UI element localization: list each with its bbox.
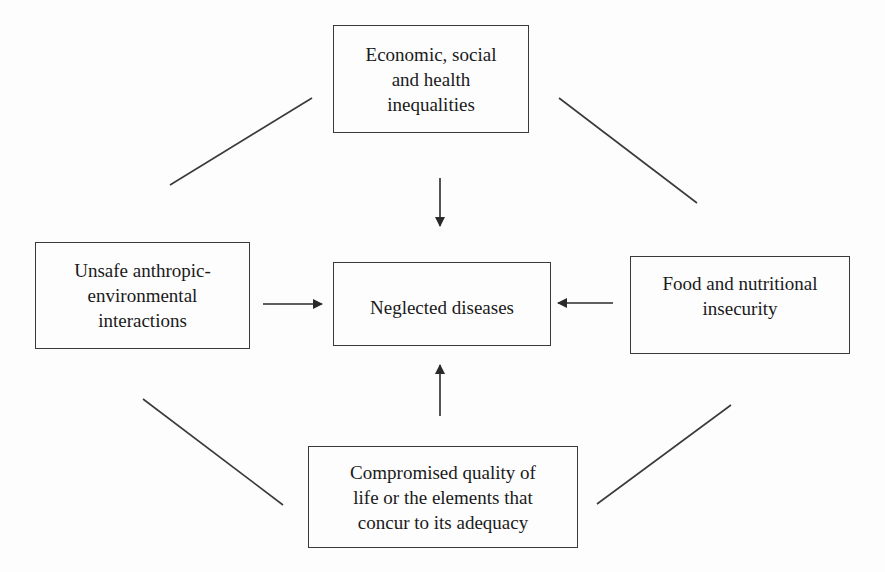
node-compromised-quality-of-life: Compromised quality of life or the eleme… <box>308 446 578 548</box>
line-top-to-right <box>559 98 697 203</box>
line-right-to-bottom <box>597 405 731 504</box>
node-label: Food and nutritional insecurity <box>662 271 817 321</box>
line-top-to-left <box>170 98 312 185</box>
node-neglected-diseases: Neglected diseases <box>333 262 551 346</box>
node-label: Unsafe anthropic- environmental interact… <box>74 258 211 333</box>
node-unsafe-anthropic-environmental-interactions: Unsafe anthropic- environmental interact… <box>35 242 250 349</box>
node-label: Economic, social and health inequalities <box>366 42 497 117</box>
diagram-canvas: Economic, social and health inequalities… <box>0 0 885 572</box>
node-label: Neglected diseases <box>370 289 514 320</box>
node-economic-social-health-inequalities: Economic, social and health inequalities <box>333 25 529 133</box>
line-left-to-bottom <box>143 399 283 505</box>
node-label: Compromised quality of life or the eleme… <box>350 460 536 535</box>
node-food-nutritional-insecurity: Food and nutritional insecurity <box>630 256 850 354</box>
